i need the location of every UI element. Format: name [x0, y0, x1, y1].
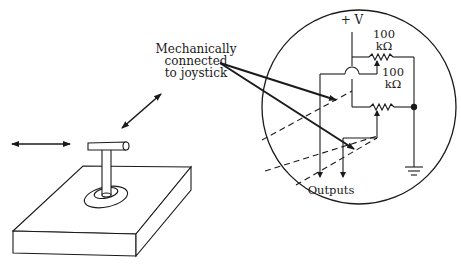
junction-dot: [411, 104, 416, 109]
joystick-shaft-bottom: [102, 193, 111, 197]
pointer-arrow-top-wiper: [220, 63, 336, 100]
linkage-dashed-3: [296, 138, 377, 185]
circuit: [262, 32, 423, 185]
joystick-circuit-diagram: Mechanically connected to joystick: [0, 0, 461, 264]
supply-label: + V: [341, 13, 364, 27]
r1-unit-label: kΩ: [376, 39, 393, 53]
joystick-handle: [88, 142, 128, 150]
outputs-label: Outputs: [308, 183, 355, 197]
r2-unit-label: kΩ: [385, 77, 402, 91]
top-resistor-zigzag: [369, 54, 393, 60]
mechanical-connection-label: Mechanically connected to joystick: [156, 42, 237, 80]
joystick-base-front: [13, 231, 136, 256]
joystick: [13, 142, 191, 256]
ground-icon: [405, 167, 423, 175]
diagonal-motion-arrow: [122, 94, 161, 128]
joystick-handle-end: [123, 142, 129, 150]
wire-crossover: [345, 67, 359, 74]
pointer-arrow-bottom-wiper: [220, 63, 354, 149]
label-line-3: to joystick: [165, 66, 228, 80]
bottom-resistor-zigzag: [370, 104, 394, 110]
joystick-shaft: [102, 149, 111, 195]
